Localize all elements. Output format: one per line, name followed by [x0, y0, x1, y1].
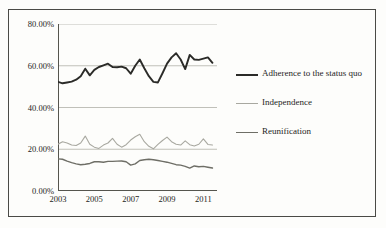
legend-line-swatch-independence: [236, 100, 258, 109]
y-axis-tick-label: 80.00%: [8, 20, 54, 29]
legend-item: Independence: [236, 97, 368, 109]
series-line-status-quo: [58, 53, 212, 83]
legend-line-swatch-status-quo: [236, 71, 258, 80]
x-axis-tick-label: 2007: [122, 195, 139, 204]
x-axis-tick-label: 2003: [50, 195, 67, 204]
plot-area: [58, 24, 217, 191]
chart-figure: 80.00%60.00%40.00%20.00%0.00% 2003200520…: [0, 0, 386, 228]
chart-legend: Adherence to the status quo Independence…: [236, 68, 368, 155]
legend-item: Adherence to the status quo: [236, 68, 368, 80]
legend-line-swatch-reunification: [236, 129, 258, 138]
series-line-reunification: [58, 159, 212, 168]
y-axis-tick-label: 60.00%: [8, 62, 54, 71]
series-line-independence: [58, 134, 212, 149]
y-axis-tick-label: 20.00%: [8, 145, 54, 154]
y-axis-tick-labels: 80.00%60.00%40.00%20.00%0.00%: [6, 24, 54, 191]
legend-label-status-quo: Adherence to the status quo: [262, 68, 362, 80]
x-axis-tick-label: 2005: [86, 195, 103, 204]
y-axis-tick-label: 40.00%: [8, 104, 54, 113]
x-axis-tick-labels: 20032005200720092011: [58, 195, 223, 209]
y-axis-tick-label: 0.00%: [8, 187, 54, 196]
legend-item: Reunification: [236, 126, 368, 138]
legend-label-reunification: Reunification: [262, 126, 311, 138]
x-axis-tick-label: 2009: [159, 195, 176, 204]
x-axis-tick-label: 2011: [195, 195, 212, 204]
plot-svg: [58, 24, 217, 191]
legend-label-independence: Independence: [262, 97, 312, 109]
